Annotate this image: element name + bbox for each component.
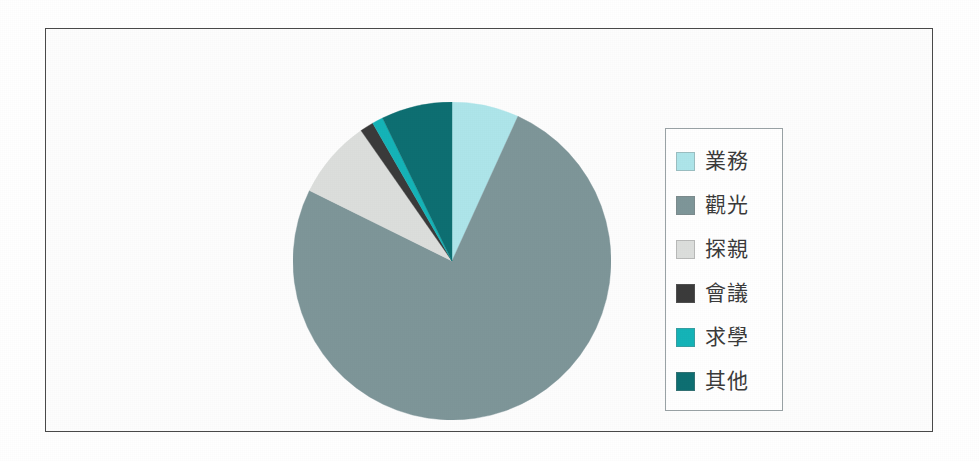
legend-swatch-icon (676, 240, 695, 259)
legend-item[interactable]: 業務 (676, 139, 782, 183)
legend-swatch-icon (676, 284, 695, 303)
legend-item[interactable]: 其他 (676, 359, 782, 403)
figure-root: 業務 觀光 探親 會議 求學 其他 (0, 0, 979, 461)
pie-slice-group (293, 102, 611, 420)
legend-item-label: 求學 (705, 327, 748, 348)
legend-item[interactable]: 探親 (676, 227, 782, 271)
legend-item-label: 業務 (705, 151, 748, 172)
legend-item-label: 觀光 (705, 195, 748, 216)
legend-swatch-icon (676, 196, 695, 215)
legend-item[interactable]: 會議 (676, 271, 782, 315)
legend-swatch-icon (676, 372, 695, 391)
chart-legend: 業務 觀光 探親 會議 求學 其他 (665, 128, 783, 411)
legend-item-label: 探親 (705, 239, 748, 260)
pie-chart (293, 102, 611, 420)
legend-swatch-icon (676, 152, 695, 171)
legend-swatch-icon (676, 328, 695, 347)
legend-item-label: 會議 (705, 283, 748, 304)
pie-svg (293, 102, 611, 420)
legend-item[interactable]: 觀光 (676, 183, 782, 227)
chart-frame: 業務 觀光 探親 會議 求學 其他 (45, 28, 933, 432)
legend-item-label: 其他 (705, 371, 748, 392)
legend-item[interactable]: 求學 (676, 315, 782, 359)
